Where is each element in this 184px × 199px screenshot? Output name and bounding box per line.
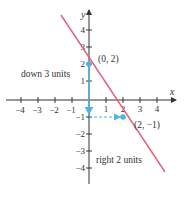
y-axis-label: y <box>80 9 86 20</box>
svg-text:−2: −2 <box>75 129 85 139</box>
right-2-units-label: right 2 units <box>96 155 142 165</box>
down-3-units-label: down 3 units <box>21 69 70 79</box>
x-axis-label: x <box>169 86 175 97</box>
svg-text:1: 1 <box>81 76 86 86</box>
point-0-2 <box>86 61 92 67</box>
svg-text:−4: −4 <box>75 163 85 173</box>
svg-text:−1: −1 <box>66 105 76 115</box>
svg-text:−2: −2 <box>49 105 59 115</box>
svg-text:4: 4 <box>81 25 86 35</box>
svg-text:2: 2 <box>81 59 86 69</box>
x-tick-labels: −4 −3 −2 −1 1 2 3 4 <box>15 104 160 115</box>
y-tick-labels: 4 3 2 1 −1 −2 −3 −4 <box>75 25 85 173</box>
svg-text:4: 4 <box>155 104 160 114</box>
point-0-2-label: (0, 2) <box>98 54 119 65</box>
point-2-neg1 <box>120 114 126 120</box>
svg-text:−3: −3 <box>75 146 85 156</box>
svg-text:−3: −3 <box>32 105 42 115</box>
point-2-neg1-label: (2, −1) <box>134 120 160 131</box>
svg-text:−1: −1 <box>75 112 85 122</box>
svg-text:1: 1 <box>104 104 109 114</box>
coordinate-plane: x y −4 −3 −2 −1 1 2 3 4 4 3 2 1 <box>0 0 184 199</box>
svg-text:−4: −4 <box>15 105 25 115</box>
svg-text:3: 3 <box>138 104 143 114</box>
